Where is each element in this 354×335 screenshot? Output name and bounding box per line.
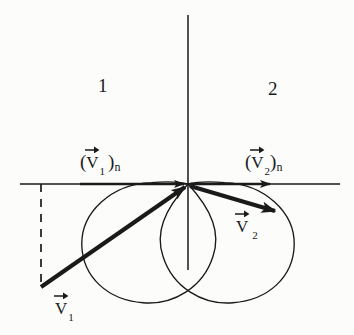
v1-resultant-subscript: 1 [67, 311, 74, 323]
v1-normal-outer-subscript: n [114, 160, 120, 174]
v1-resultant-vector-symbol: V [55, 300, 67, 317]
v2-resultant-vector-symbol: V [236, 218, 248, 235]
v2-normal-vector-symbol: V [251, 154, 263, 171]
v2-normal-subscript: 2 [264, 165, 271, 177]
v1-resultant-symbol-glyph: V [55, 299, 67, 318]
v1-resultant-label: V 1 [55, 300, 74, 320]
v1-normal-subscript: 1 [99, 165, 106, 177]
v1-normal-symbol-glyph: V [86, 153, 98, 172]
v2-normal-label: (V 2)n [245, 152, 282, 174]
v2-resultant-subscript: 2 [251, 229, 258, 241]
diagram-canvas [0, 0, 354, 335]
v2-resultant-arrow [190, 186, 275, 211]
v2-resultant-label: V 2 [236, 218, 258, 238]
v2-normal-symbol-glyph: V [251, 153, 263, 172]
v1-normal-vector-symbol: V [86, 154, 98, 171]
region-label-2: 2 [268, 79, 278, 98]
v2-normal-outer-subscript: n [276, 160, 282, 174]
region-label-1: 1 [98, 76, 108, 95]
v1-resultant-arrow [41, 187, 185, 287]
v1-normal-label: (V 1)n [80, 152, 120, 174]
physics-vector-diagram: 1 2 (V 1)n (V 2)n V 2 V 1 [0, 0, 354, 335]
v2-resultant-symbol-glyph: V [236, 217, 248, 236]
